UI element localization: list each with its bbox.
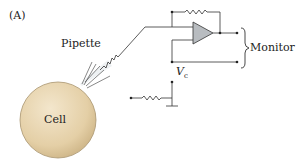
monitor-label: Monitor <box>250 41 295 54</box>
command-voltage-label: Vc <box>176 65 188 80</box>
monitor-brace <box>241 28 249 68</box>
vc-subscript: c <box>184 72 188 80</box>
panel-label: (A) <box>9 9 26 22</box>
command-voltage-circuit <box>131 82 178 106</box>
electrode-wire <box>100 27 172 70</box>
circuit-nodes <box>130 11 239 100</box>
cell-label: Cell <box>44 113 66 126</box>
vc-symbol: V <box>176 65 184 78</box>
op-amp-icon <box>172 22 237 62</box>
pipette-label: Pipette <box>61 37 101 50</box>
voltage-clamp-diagram: (A) Pipette Cell Monitor Vc <box>0 0 301 160</box>
